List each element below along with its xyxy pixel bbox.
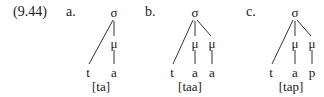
syllable-node: σ [291, 6, 298, 19]
segment-node: t [269, 66, 273, 79]
segment-node: a [111, 66, 117, 79]
transcription: [ta] [92, 80, 110, 93]
syllable-node: σ [110, 6, 117, 19]
segment-node: p [309, 66, 316, 79]
mora-node: μ [111, 37, 118, 50]
diagram-label: b. [145, 5, 156, 19]
segment-node: a [192, 66, 198, 79]
mora-node: μ [309, 37, 316, 50]
diagram-label: c. [246, 5, 256, 19]
transcription: [taa] [178, 80, 202, 93]
segment-node: t [86, 66, 90, 79]
segment-node: a [292, 66, 298, 79]
segment-node: t [170, 66, 174, 79]
mora-node: μ [209, 37, 216, 50]
tree-branches [0, 0, 324, 97]
transcription: [tap] [279, 80, 304, 93]
mora-node: μ [192, 37, 199, 50]
segment-node: a [209, 66, 215, 79]
mora-node: μ [292, 37, 299, 50]
diagram-label: a. [66, 5, 76, 19]
syllable-node: σ [191, 6, 198, 19]
